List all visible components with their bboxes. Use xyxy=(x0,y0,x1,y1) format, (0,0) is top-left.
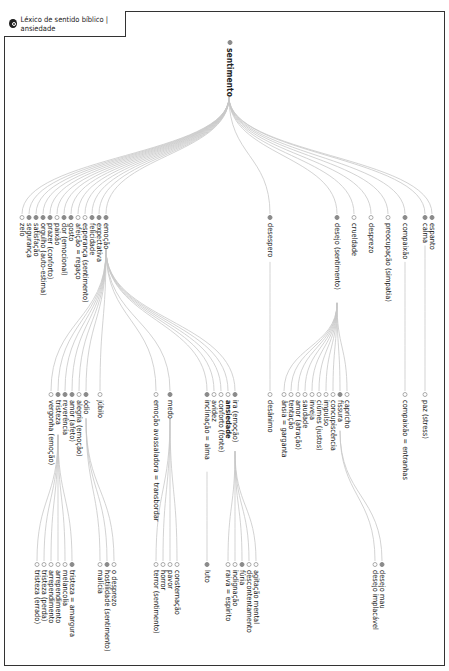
filled-dot-icon xyxy=(89,215,94,220)
filled-dot-icon xyxy=(204,392,209,397)
open-dot-icon xyxy=(246,562,251,567)
node-label: desespero xyxy=(266,223,275,257)
open-dot-icon xyxy=(153,562,158,567)
open-dot-icon xyxy=(225,392,230,397)
tree-node[interactable]: agitação mental xyxy=(253,562,260,624)
filled-dot-icon xyxy=(103,215,108,220)
open-dot-icon xyxy=(97,562,102,567)
open-dot-icon xyxy=(111,562,116,567)
open-dot-icon xyxy=(82,215,87,220)
filled-dot-icon xyxy=(61,215,66,220)
open-dot-icon xyxy=(302,392,307,397)
filled-dot-icon xyxy=(422,215,427,220)
open-dot-icon xyxy=(309,392,314,397)
open-dot-icon xyxy=(368,215,373,220)
node-label: tristeza = amargura xyxy=(68,570,77,637)
open-dot-icon xyxy=(323,392,328,397)
tree-node[interactable]: preocupação (simpatia) xyxy=(385,215,392,302)
node-label: júbilo xyxy=(96,400,105,418)
node-label: sentimento xyxy=(225,48,235,97)
open-dot-icon xyxy=(316,392,321,397)
tree-node[interactable]: desânimo xyxy=(267,392,274,432)
filled-dot-icon xyxy=(402,215,407,220)
open-dot-icon xyxy=(211,392,216,397)
open-dot-icon xyxy=(174,562,179,567)
tree-node[interactable]: emoção avassaladora = transbordar xyxy=(153,392,160,521)
filled-dot-icon xyxy=(334,215,339,220)
open-dot-icon xyxy=(160,562,165,567)
tree-node[interactable]: desespero xyxy=(267,215,274,257)
node-label: desânimo xyxy=(266,400,275,432)
open-dot-icon xyxy=(153,392,158,397)
open-dot-icon xyxy=(62,562,67,567)
filled-dot-icon xyxy=(55,392,60,397)
filled-dot-icon xyxy=(96,215,101,220)
open-dot-icon xyxy=(54,215,59,220)
tree-node[interactable]: compaixão xyxy=(402,215,409,259)
node-label: desprezo xyxy=(367,223,376,253)
tree-node[interactable]: o desprezo xyxy=(111,562,118,606)
tree-node[interactable]: tristeza = amargura xyxy=(69,562,76,637)
filled-dot-icon xyxy=(337,392,342,397)
tree-node[interactable]: crueldade xyxy=(351,215,358,256)
filled-dot-icon xyxy=(47,215,52,220)
filled-dot-icon xyxy=(429,215,434,220)
open-dot-icon xyxy=(232,562,237,567)
node-label: agitação mental xyxy=(252,570,261,624)
open-dot-icon xyxy=(330,392,335,397)
open-dot-icon xyxy=(372,562,377,567)
filled-dot-icon xyxy=(267,215,272,220)
open-dot-icon xyxy=(281,392,286,397)
open-dot-icon xyxy=(288,392,293,397)
node-label: espanto xyxy=(428,223,437,250)
node-label: desejo (sentimento) xyxy=(333,223,342,290)
open-dot-icon xyxy=(48,562,53,567)
filled-dot-icon xyxy=(379,562,384,567)
open-dot-icon xyxy=(48,392,53,397)
node-label: crueldade xyxy=(350,223,359,256)
tree-node[interactable]: emoção xyxy=(103,215,110,249)
tree-node[interactable]: júbilo xyxy=(97,392,104,418)
filled-dot-icon xyxy=(69,392,74,397)
open-dot-icon xyxy=(76,392,81,397)
tree-node[interactable]: compaixão = entranhas xyxy=(402,392,409,480)
open-dot-icon xyxy=(351,215,356,220)
open-dot-icon xyxy=(55,562,60,567)
node-label: consternação xyxy=(173,570,182,615)
filled-dot-icon xyxy=(239,562,244,567)
filled-dot-icon xyxy=(104,562,109,567)
filled-dot-icon xyxy=(227,40,232,45)
tree-node[interactable]: luto xyxy=(204,562,211,583)
node-label: medo xyxy=(166,400,175,419)
filled-dot-icon xyxy=(33,215,38,220)
tree-node[interactable]: desejo (sentimento) xyxy=(334,215,341,290)
node-label: ira (emoção) xyxy=(231,400,240,442)
node-label: emoção xyxy=(102,223,111,249)
node-label: paz (stress) xyxy=(421,400,430,439)
node-label: ódio xyxy=(82,400,91,414)
open-dot-icon xyxy=(75,215,80,220)
tree-node[interactable]: desprezo xyxy=(368,215,375,253)
filled-dot-icon xyxy=(167,392,172,397)
tree-node[interactable]: espanto xyxy=(429,215,436,250)
node-label: emoção avassaladora = transbordar xyxy=(152,400,161,521)
tree-node[interactable]: sentimento xyxy=(226,40,233,97)
open-dot-icon xyxy=(34,562,39,567)
open-dot-icon xyxy=(167,562,172,567)
node-label: capricho xyxy=(343,400,352,428)
node-label: luto xyxy=(203,570,212,583)
tree-node[interactable]: paz (stress) xyxy=(422,392,429,439)
tree-node[interactable]: medo xyxy=(167,392,174,419)
open-dot-icon xyxy=(295,392,300,397)
filled-dot-icon xyxy=(83,392,88,397)
tree-node[interactable]: desejo mau xyxy=(379,562,386,609)
node-label: compaixão xyxy=(401,223,410,259)
tree-node[interactable]: ira (emoção) xyxy=(232,392,239,442)
tree-node[interactable]: capricho xyxy=(344,392,351,428)
tree-node[interactable]: consternação xyxy=(174,562,181,615)
filled-dot-icon xyxy=(40,215,45,220)
open-dot-icon xyxy=(97,392,102,397)
filled-dot-icon xyxy=(204,562,209,567)
open-dot-icon xyxy=(19,215,24,220)
tree-node[interactable]: ódio xyxy=(83,392,90,414)
